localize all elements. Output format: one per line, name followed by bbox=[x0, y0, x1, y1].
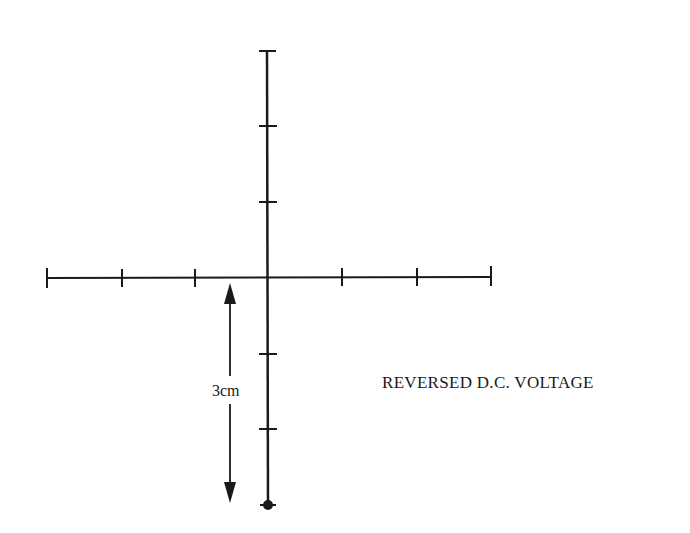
vertical-axis bbox=[267, 51, 268, 505]
diagram-caption: REVERSED D.C. VOLTAGE bbox=[382, 373, 594, 393]
dimension-label: 3cm bbox=[212, 380, 240, 402]
horizontal-axis bbox=[47, 277, 491, 278]
arrow-up-icon bbox=[224, 283, 236, 304]
arrow-down-icon bbox=[224, 482, 236, 503]
oscilloscope-graticule bbox=[0, 0, 690, 533]
trace-spot bbox=[260, 500, 276, 510]
